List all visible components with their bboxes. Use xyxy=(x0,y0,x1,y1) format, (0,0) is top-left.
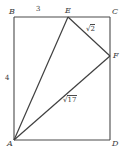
radicand-ef: 2 xyxy=(90,24,95,33)
vertex-label-d: D xyxy=(112,140,118,148)
radicand-af: 17 xyxy=(67,95,77,104)
geometry-canvas xyxy=(0,0,126,156)
geometry-figure: B C D A E F 3 4 √2 √17 xyxy=(0,0,126,156)
vertex-label-b: B xyxy=(9,8,15,16)
vertex-label-e: E xyxy=(65,7,71,15)
measure-label-ef: √2 xyxy=(86,26,95,33)
vertex-label-c: C xyxy=(112,8,118,16)
measure-label-be: 3 xyxy=(36,6,40,13)
segment-AF xyxy=(14,56,110,140)
segment-AE xyxy=(14,17,68,140)
measure-label-af: √17 xyxy=(63,97,77,104)
segment-EF xyxy=(68,17,110,56)
measure-label-ab: 4 xyxy=(5,75,9,82)
vertex-label-f: F xyxy=(113,52,119,60)
vertex-label-a: A xyxy=(7,140,13,148)
